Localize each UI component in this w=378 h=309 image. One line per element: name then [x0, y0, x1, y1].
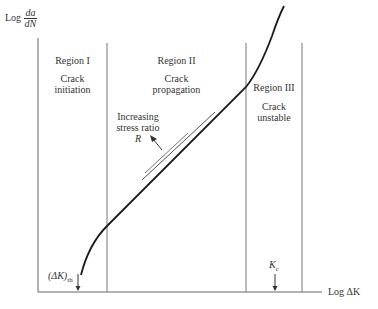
region-3-title: Region III [246, 82, 302, 94]
annotation-line-3: R [108, 133, 168, 145]
y-axis-label: Log da dN [5, 8, 37, 29]
kc-label: Kc [269, 259, 279, 275]
region-1-desc-2: initiation [38, 84, 107, 96]
region-3-desc-2: unstable [246, 112, 302, 124]
kc-arrowhead-icon [273, 286, 278, 291]
y-axis-fraction: da dN [24, 8, 38, 29]
kc-label-sub: c [276, 265, 279, 273]
threshold-label-sub: th [67, 276, 72, 284]
kc-label-main: K [269, 259, 276, 270]
fatigue-crack-growth-diagram [0, 0, 378, 309]
threshold-arrowhead-icon [76, 286, 81, 291]
region-1-title: Region I [38, 55, 107, 67]
x-axis-label: Log ΔK [328, 286, 360, 298]
threshold-label-main: (ΔK) [48, 270, 67, 281]
threshold-label: (ΔK)th [48, 270, 73, 286]
region-2-desc-2: propagation [107, 84, 246, 96]
y-axis-label-prefix: Log [5, 12, 21, 23]
region-2-title: Region II [107, 55, 246, 67]
y-axis-denominator: dN [24, 19, 38, 29]
